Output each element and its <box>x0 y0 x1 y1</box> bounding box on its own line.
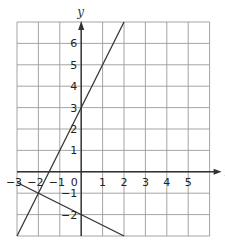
y-axis-label: y <box>76 5 84 19</box>
x-tick-label: 4 <box>163 176 170 189</box>
x-axis-arrow-icon <box>214 169 222 175</box>
axes <box>17 21 222 236</box>
y-tick-label: 5 <box>70 59 77 72</box>
grid-lines <box>17 22 210 236</box>
y-tick-label: −2 <box>61 209 77 222</box>
y-tick-label: 6 <box>70 37 77 50</box>
x-tick-label: 5 <box>185 176 192 189</box>
x-tick-label: 2 <box>121 176 128 189</box>
y-tick-label: 3 <box>70 102 77 115</box>
y-tick-label: −1 <box>61 187 77 200</box>
x-tick-label: −2 <box>27 176 43 189</box>
x-tick-label: −3 <box>6 176 22 189</box>
y-tick-label: 2 <box>70 123 77 136</box>
coordinate-graph: −3−2−1012345−2−1123456xy <box>0 0 225 249</box>
y-tick-label: 4 <box>70 80 77 93</box>
y-tick-label: 1 <box>70 144 77 157</box>
x-tick-label: 3 <box>142 176 149 189</box>
x-tick-label: 1 <box>99 176 106 189</box>
